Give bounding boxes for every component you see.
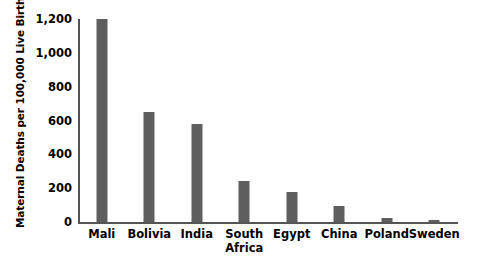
bar-slot bbox=[221, 19, 269, 222]
bar[interactable] bbox=[144, 112, 155, 222]
plot-area bbox=[78, 19, 458, 222]
bar[interactable] bbox=[96, 19, 107, 222]
bar[interactable] bbox=[191, 124, 202, 222]
bars-layer bbox=[78, 19, 458, 222]
y-axis-tick-label: 200 bbox=[26, 182, 72, 194]
bar[interactable] bbox=[239, 181, 250, 222]
y-axis-tick-label: 1,000 bbox=[26, 47, 72, 59]
y-axis-tick-label: 600 bbox=[26, 115, 72, 127]
y-axis-tick-label: 800 bbox=[26, 81, 72, 93]
x-axis-tick-label: Sweden bbox=[407, 227, 463, 241]
x-axis-tick-labels: MaliBoliviaIndiaSouth AfricaEgyptChinaPo… bbox=[78, 227, 458, 267]
y-axis-tick-label: 400 bbox=[26, 148, 72, 160]
y-axis-tick-label: 1,200 bbox=[26, 13, 72, 25]
bar-slot bbox=[126, 19, 174, 222]
bar-slot bbox=[78, 19, 126, 222]
bar[interactable] bbox=[381, 218, 392, 222]
bar-chart: Maternal Deaths per 100,000 Live Births … bbox=[0, 0, 488, 268]
bar[interactable] bbox=[286, 192, 297, 222]
y-axis-tick-labels: 02004006008001,0001,200 bbox=[26, 0, 72, 268]
bar-slot bbox=[316, 19, 364, 222]
bar-slot bbox=[363, 19, 411, 222]
y-axis-tick-label: 0 bbox=[26, 216, 72, 228]
bar[interactable] bbox=[429, 220, 440, 222]
bar-slot bbox=[411, 19, 459, 222]
bar-slot bbox=[268, 19, 316, 222]
x-axis-line bbox=[78, 222, 458, 224]
bar-slot bbox=[173, 19, 221, 222]
bar[interactable] bbox=[334, 206, 345, 222]
